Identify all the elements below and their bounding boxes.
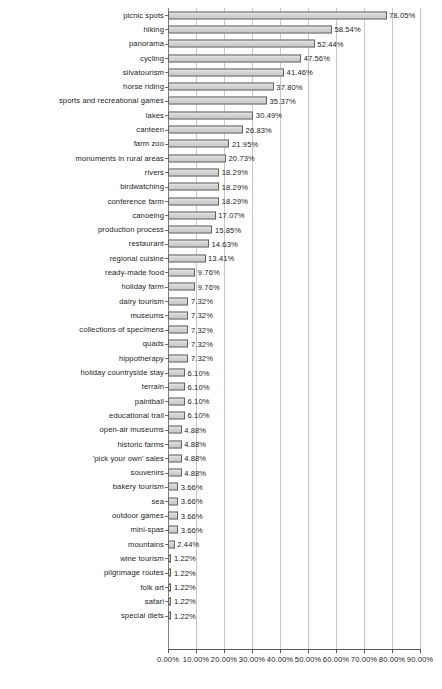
bar-row: educational trail6.10% bbox=[0, 408, 442, 422]
category-label: sports and recreational games bbox=[0, 96, 164, 105]
bar-row: ready-made food9.76% bbox=[0, 265, 442, 279]
bar bbox=[168, 311, 188, 319]
bar bbox=[168, 354, 188, 362]
plot-area: picnic spots78.05%hiking58.54%panorama52… bbox=[0, 0, 442, 657]
bar bbox=[168, 454, 182, 462]
bar-row: conference farm18.29% bbox=[0, 194, 442, 208]
category-label: hippotherapy bbox=[0, 354, 164, 363]
category-label: rivers bbox=[0, 168, 164, 177]
bar-container: 6.10% bbox=[168, 411, 210, 420]
bar bbox=[168, 54, 301, 62]
bar-value-label: 21.95% bbox=[232, 139, 258, 148]
bar-row: monuments in rural areas20.73% bbox=[0, 151, 442, 165]
bar-container: 2.44% bbox=[168, 540, 199, 549]
category-label: restaurant bbox=[0, 239, 164, 248]
bar-row: pilgrimage routes1.22% bbox=[0, 566, 442, 580]
category-label: museums bbox=[0, 311, 164, 320]
category-label: holiday farm bbox=[0, 282, 164, 291]
bar bbox=[168, 240, 209, 248]
bar-container: 18.29% bbox=[168, 182, 248, 191]
category-label: 'pick your own' sales bbox=[0, 454, 164, 463]
category-label: outdoor games bbox=[0, 511, 164, 520]
bar-value-label: 18.29% bbox=[222, 182, 248, 191]
bar-value-label: 3.66% bbox=[181, 497, 203, 506]
bar-container: 13.41% bbox=[168, 254, 234, 263]
bar-container: 18.29% bbox=[168, 168, 248, 177]
bar-row: terrain6.10% bbox=[0, 380, 442, 394]
bar-row: quads7.32% bbox=[0, 337, 442, 351]
bar-row: canteen26.83% bbox=[0, 122, 442, 136]
category-label: panorama bbox=[0, 39, 164, 48]
bar-row: sea3.66% bbox=[0, 494, 442, 508]
category-label: sea bbox=[0, 497, 164, 506]
bar-value-label: 35.37% bbox=[270, 96, 296, 105]
bar-row: paintball6.10% bbox=[0, 394, 442, 408]
bar-value-label: 6.10% bbox=[188, 411, 210, 420]
bar-container: 1.22% bbox=[168, 554, 196, 563]
bar bbox=[168, 512, 178, 520]
bar bbox=[168, 97, 267, 105]
x-axis-tick bbox=[252, 650, 253, 653]
category-label: silvatourism bbox=[0, 68, 164, 77]
category-label: holiday countryside stay bbox=[0, 368, 164, 377]
bar-chart: picnic spots78.05%hiking58.54%panorama52… bbox=[0, 0, 442, 689]
bar-row: folk art1.22% bbox=[0, 580, 442, 594]
bar-container: 30.49% bbox=[168, 111, 282, 120]
bar-value-label: 1.22% bbox=[174, 597, 196, 606]
bar bbox=[168, 597, 171, 605]
bar-value-label: 1.22% bbox=[174, 611, 196, 620]
bar bbox=[168, 183, 219, 191]
bar-row: horse riding37.80% bbox=[0, 79, 442, 93]
bar-row: cycling47.56% bbox=[0, 51, 442, 65]
bar-container: 3.66% bbox=[168, 511, 203, 520]
bar bbox=[168, 111, 253, 119]
bar-row: hiking58.54% bbox=[0, 22, 442, 36]
bar-value-label: 30.49% bbox=[256, 111, 282, 120]
bar-container: 3.66% bbox=[168, 482, 203, 491]
bar bbox=[168, 140, 229, 148]
bar-value-label: 78.05% bbox=[389, 11, 415, 20]
category-label: pilgrimage routes bbox=[0, 568, 164, 577]
bar bbox=[168, 569, 171, 577]
category-label: open-air museums bbox=[0, 425, 164, 434]
category-label: canoeing bbox=[0, 211, 164, 220]
bar-row: birdwatching18.29% bbox=[0, 180, 442, 194]
bar-container: 58.54% bbox=[168, 25, 361, 34]
bar-value-label: 4.88% bbox=[184, 468, 206, 477]
bar-value-label: 9.76% bbox=[198, 282, 220, 291]
bar-container: 1.22% bbox=[168, 611, 196, 620]
bar-value-label: 7.32% bbox=[191, 311, 213, 320]
bar-row: 'pick your own' sales4.88% bbox=[0, 451, 442, 465]
category-label: birdwatching bbox=[0, 182, 164, 191]
bar-container: 15.85% bbox=[168, 225, 241, 234]
category-label: hiking bbox=[0, 25, 164, 34]
bar bbox=[168, 483, 178, 491]
bar-value-label: 13.41% bbox=[208, 254, 234, 263]
category-label: souvenirs bbox=[0, 468, 164, 477]
bar-row: silvatourism41.46% bbox=[0, 65, 442, 79]
x-axis-tick bbox=[168, 650, 169, 653]
category-label: educational trail bbox=[0, 411, 164, 420]
x-axis-tick bbox=[420, 650, 421, 653]
bar-value-label: 4.88% bbox=[184, 440, 206, 449]
bar bbox=[168, 426, 182, 434]
bar-container: 7.32% bbox=[168, 354, 213, 363]
bar-row: outdoor games3.66% bbox=[0, 508, 442, 522]
bar-row: holiday countryside stay6.10% bbox=[0, 365, 442, 379]
bar-value-label: 37.80% bbox=[276, 82, 302, 91]
bar-value-label: 6.10% bbox=[188, 397, 210, 406]
bar-row: sports and recreational games35.37% bbox=[0, 94, 442, 108]
category-label: paintball bbox=[0, 397, 164, 406]
bar bbox=[168, 554, 171, 562]
bar-row: holiday farm9.76% bbox=[0, 280, 442, 294]
category-label: farm zoo bbox=[0, 139, 164, 148]
bar-row: picnic spots78.05% bbox=[0, 8, 442, 22]
bar-value-label: 3.66% bbox=[181, 525, 203, 534]
bar-row: lakes30.49% bbox=[0, 108, 442, 122]
bar bbox=[168, 83, 274, 91]
bar-container: 4.88% bbox=[168, 468, 206, 477]
category-label: mountains bbox=[0, 540, 164, 549]
bar-row: rivers18.29% bbox=[0, 165, 442, 179]
bar-value-label: 1.22% bbox=[174, 568, 196, 577]
bar bbox=[168, 211, 216, 219]
